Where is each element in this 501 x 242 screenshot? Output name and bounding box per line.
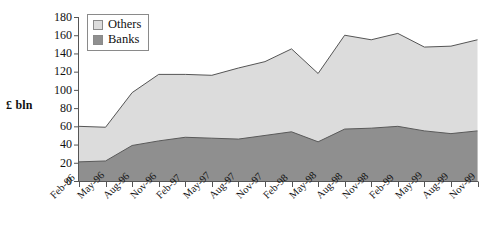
legend-label-banks: Banks [108, 33, 139, 46]
legend-swatch-others-icon [93, 20, 103, 30]
legend-swatch-banks-icon [93, 35, 103, 45]
legend-item-banks: Banks [93, 32, 141, 47]
legend-label-others: Others [108, 18, 141, 31]
chart-legend: Others Banks [87, 14, 149, 51]
plot-area [0, 0, 501, 242]
chart-container: £ bln 180 160 140 120 100 80 60 40 20 0 … [0, 0, 501, 242]
legend-item-others: Others [93, 17, 141, 32]
